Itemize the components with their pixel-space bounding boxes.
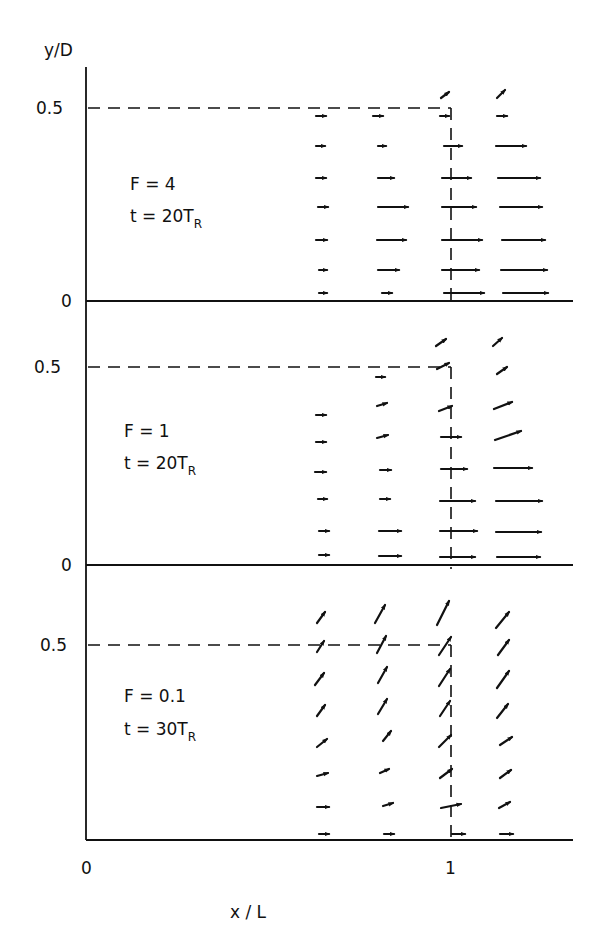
velocity-arrow xyxy=(439,406,452,411)
velocity-arrow xyxy=(497,704,508,718)
panel-f01: 0.5 F = 0.1 t = 30TR xyxy=(40,565,573,845)
panel-label-F: F = 1 xyxy=(124,421,170,441)
y-tick-zero: 0 xyxy=(61,291,72,311)
velocity-arrow xyxy=(437,601,449,625)
velocity-arrow xyxy=(378,667,387,683)
velocity-arrow xyxy=(441,92,449,98)
velocity-arrow xyxy=(497,90,505,98)
velocity-arrow xyxy=(317,641,324,652)
velocity-vectors xyxy=(315,338,542,557)
velocity-arrow xyxy=(498,640,509,655)
velocity-arrow xyxy=(317,773,328,776)
x-axis-label: x / L xyxy=(230,902,267,922)
velocity-arrow xyxy=(497,367,507,374)
velocity-arrow xyxy=(500,770,511,778)
panel-f4: 0.5 0 F = 4 t = 20TR xyxy=(36,67,573,311)
panel-label-t: t = 30TR xyxy=(124,719,196,744)
velocity-arrow xyxy=(439,669,450,686)
velocity-arrow xyxy=(494,402,512,409)
y-axis-label: y/D xyxy=(44,40,73,60)
panel-label-t: t = 20TR xyxy=(124,453,196,478)
velocity-arrow xyxy=(439,735,451,747)
panel-label-t: t = 20TR xyxy=(130,206,202,231)
y-tick-half: 0.5 xyxy=(40,635,67,655)
vector-field-figure: y/D 0.5 0 F = 4 t = 20TR 0.5 0 F = 1 t =… xyxy=(0,0,603,942)
velocity-arrow xyxy=(500,737,512,745)
velocity-arrow xyxy=(317,739,327,747)
y-tick-half: 0.5 xyxy=(34,357,61,377)
velocity-arrow xyxy=(496,612,509,628)
velocity-arrow xyxy=(317,705,325,716)
velocity-arrow xyxy=(437,363,449,369)
y-tick-zero: 0 xyxy=(61,555,72,575)
velocity-arrow xyxy=(383,731,391,741)
velocity-arrow xyxy=(378,699,387,714)
velocity-arrow xyxy=(383,803,393,806)
velocity-arrow xyxy=(315,673,324,685)
velocity-arrow xyxy=(317,612,325,623)
x-tick-one: 1 xyxy=(445,858,456,878)
velocity-vectors xyxy=(315,601,513,834)
velocity-vectors xyxy=(316,90,548,293)
velocity-arrow xyxy=(375,605,385,623)
velocity-arrow xyxy=(497,671,509,688)
panel-label-F: F = 0.1 xyxy=(124,686,186,706)
panel-f1: 0.5 0 F = 1 t = 20TR xyxy=(34,301,573,575)
x-tick-zero: 0 xyxy=(81,858,92,878)
velocity-arrow xyxy=(493,338,502,346)
velocity-arrow xyxy=(499,802,510,808)
panel-label-F: F = 4 xyxy=(130,174,176,194)
velocity-arrow xyxy=(436,339,446,346)
velocity-arrow xyxy=(440,701,450,716)
velocity-arrow xyxy=(377,435,388,438)
y-tick-half: 0.5 xyxy=(36,98,63,118)
velocity-arrow xyxy=(380,769,389,773)
velocity-arrow xyxy=(439,637,451,655)
velocity-arrow xyxy=(495,431,521,440)
velocity-arrow xyxy=(377,403,387,406)
